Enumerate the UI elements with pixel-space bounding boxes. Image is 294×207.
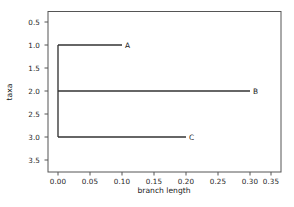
y-axis-label: taxa xyxy=(5,84,14,101)
y-tick-label-4: 2.5 xyxy=(14,110,40,119)
x-tick-marks xyxy=(58,172,271,176)
x-tick-label-1: 0.05 xyxy=(82,177,98,186)
x-tick-label-5: 0.25 xyxy=(210,177,226,186)
x-tick-label-7: 0.35 xyxy=(263,177,279,186)
y-tick-label-1: 1.0 xyxy=(14,41,40,50)
y-tick-label-3: 2.0 xyxy=(14,87,40,96)
y-tick-label-2: 1.5 xyxy=(14,64,40,73)
taxon-label-b: B xyxy=(253,87,258,96)
y-tick-label-6: 3.5 xyxy=(14,156,40,165)
axes-spines xyxy=(48,12,281,173)
taxon-label-c: C xyxy=(189,133,194,142)
chart-figure: 0.5 1.0 1.5 2.0 2.5 3.0 3.5 0.00 0.05 0.… xyxy=(0,0,294,207)
y-tick-marks xyxy=(45,22,49,160)
phylogenetic-tree-plot xyxy=(0,0,294,207)
y-tick-label-5: 3.0 xyxy=(14,133,40,142)
taxon-label-a: A xyxy=(125,41,130,50)
x-tick-label-6: 0.30 xyxy=(242,177,258,186)
y-tick-label-0: 0.5 xyxy=(14,18,40,27)
x-tick-label-4: 0.20 xyxy=(178,177,194,186)
x-tick-label-0: 0.00 xyxy=(50,177,66,186)
x-tick-label-3: 0.15 xyxy=(146,177,162,186)
x-axis-label: branch length xyxy=(137,186,190,195)
x-tick-label-2: 0.10 xyxy=(114,177,130,186)
